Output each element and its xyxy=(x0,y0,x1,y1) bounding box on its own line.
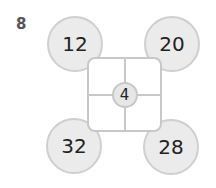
center-grid: 4 xyxy=(87,57,162,132)
question-number: 8 xyxy=(16,15,26,33)
center-circle: 4 xyxy=(112,82,138,108)
